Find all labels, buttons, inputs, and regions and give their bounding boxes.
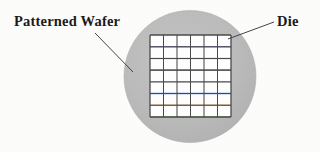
die-cell [164,105,178,117]
die-cell [177,70,191,82]
die-cell [177,58,191,70]
die-cell [150,82,164,94]
die-cell [150,47,164,59]
die-cell [150,58,164,70]
die-cell [177,105,191,117]
die-cell [191,82,205,94]
die-cell [204,47,218,59]
die-label: Die [277,14,299,29]
die-cell [218,70,232,82]
die-cell [177,82,191,94]
die-cell [218,94,232,106]
die-cell [150,70,164,82]
die-cell [204,70,218,82]
die-cell [204,58,218,70]
patterned-wafer-label: Patterned Wafer [14,14,120,29]
die-cell [164,94,178,106]
die-cell [204,105,218,117]
die-cell [218,105,232,117]
die-cell [191,70,205,82]
die-cell [218,58,232,70]
die-cell [164,58,178,70]
wafer-diagram-figure: Patterned Wafer Die [0,0,320,152]
die-cell [191,58,205,70]
die-cell [164,82,178,94]
die-cell [191,94,205,106]
die-cell [204,82,218,94]
die-cell [177,94,191,106]
die-cell [150,35,164,47]
die-cell [191,47,205,59]
die-cell [191,105,205,117]
die-cell [177,47,191,59]
die-cell [150,94,164,106]
die-cell [164,35,178,47]
die-cell [204,94,218,106]
die-cell [164,70,178,82]
die-cell [218,47,232,59]
die-cell [150,105,164,117]
die-cell [218,82,232,94]
die-cell [177,35,191,47]
die-cell [191,35,205,47]
die-cell [164,47,178,59]
die-cell [218,35,232,47]
die-cell [204,35,218,47]
